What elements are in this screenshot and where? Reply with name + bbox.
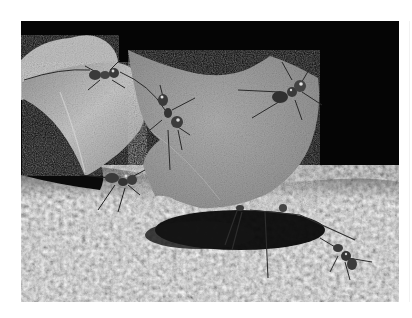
ant-photograph bbox=[21, 21, 399, 302]
photo-canvas bbox=[21, 21, 399, 302]
scan-edge-line bbox=[409, 21, 410, 302]
